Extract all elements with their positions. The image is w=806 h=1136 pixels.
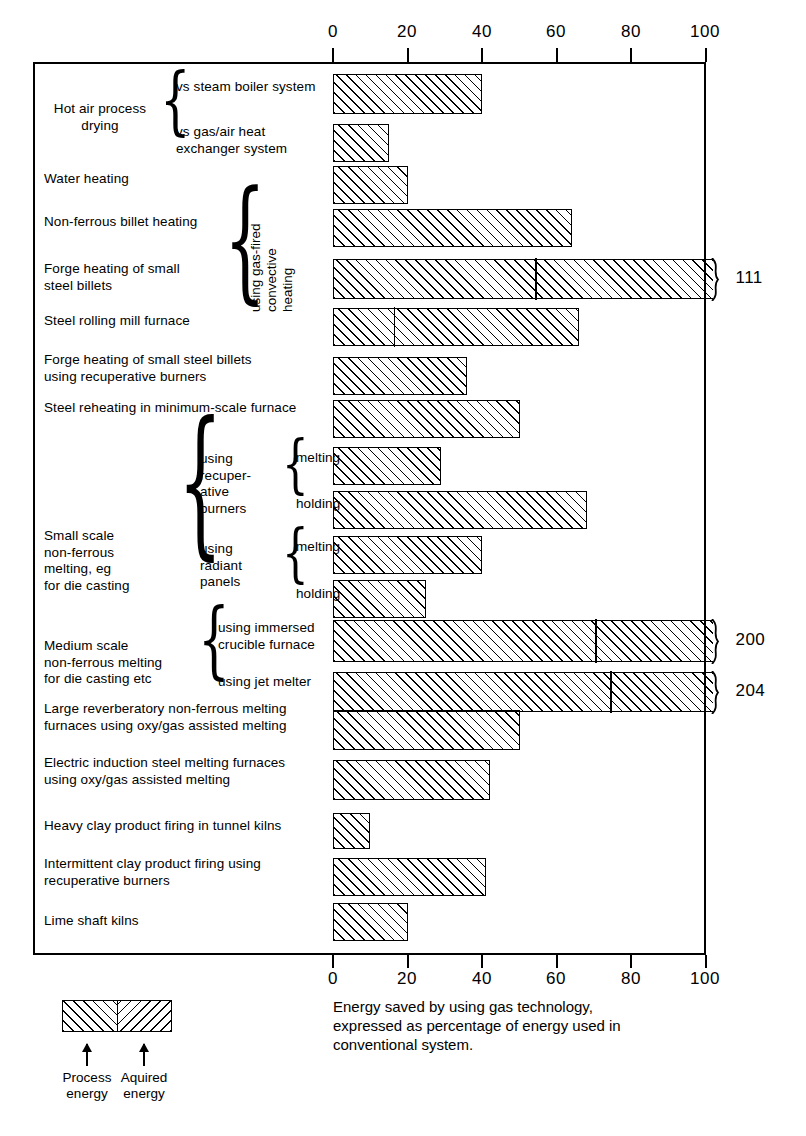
- tick-mark: [556, 955, 558, 968]
- label-holding-radiant: holding: [296, 586, 376, 603]
- label-melting-radiant: melting: [296, 539, 376, 556]
- label-using-immersed-crucible-furnace: using immersed crucible furnace: [218, 620, 378, 653]
- axis-break-icon: [711, 671, 722, 712]
- tick-mark: [481, 955, 483, 968]
- bar-value-label: 111: [735, 268, 762, 288]
- legend-swatch: [62, 1000, 172, 1032]
- bar-2: [333, 166, 408, 204]
- label-using-radiant-panels: using radiant panels: [200, 541, 286, 591]
- label-hot-air-process-drying: Hot air process drying: [30, 101, 170, 134]
- tick-mark: [630, 955, 632, 968]
- tick-mark: [407, 48, 409, 62]
- axis-bottom-tick-20: 20: [377, 969, 437, 989]
- legend-aquired-label: Aquired energy: [102, 1070, 186, 1102]
- tick-mark: [630, 48, 632, 62]
- axis-top-tick-100: 100: [675, 22, 735, 42]
- legend-aquired-arrow: [143, 1044, 145, 1066]
- label-water-heating: Water heating: [44, 171, 244, 188]
- bar-7: [333, 400, 520, 438]
- axis-top-tick-60: 60: [526, 22, 586, 42]
- axis-bottom-tick-0: 0: [303, 969, 363, 989]
- bar-0: [333, 74, 482, 114]
- legend-aquired-hatch: [118, 1001, 172, 1031]
- axis-top-tick-40: 40: [452, 22, 512, 42]
- tick-mark: [705, 48, 707, 62]
- axis-bottom-tick-80: 80: [601, 969, 661, 989]
- tick-mark: [332, 955, 334, 968]
- bar-4: [333, 259, 713, 299]
- label-vs-steam-boiler-system: vs steam boiler system: [176, 79, 346, 96]
- bar-5: [333, 308, 579, 346]
- label-using-gas-fired-convective-heating: using gas-fired convective heating: [248, 202, 296, 312]
- axis-break-icon: [711, 619, 722, 662]
- label-forge-recuperative-burners: Forge heating of small steel billets usi…: [44, 352, 344, 385]
- bar-split-divider: [535, 258, 537, 299]
- bar-3: [333, 209, 572, 247]
- label-electric-induction: Electric induction steel melting furnace…: [44, 755, 364, 788]
- bar-value-label: 200: [735, 630, 765, 650]
- label-melting-recuperative: melting: [296, 450, 376, 467]
- label-using-recuperative-burners: using recuper- ative burners: [200, 451, 286, 517]
- axis-top-tick-20: 20: [377, 22, 437, 42]
- label-vs-gas-air-heat-exchanger: vs gas/air heat exchanger system: [176, 124, 346, 157]
- label-using-jet-melter: using jet melter: [218, 674, 378, 691]
- label-intermittent-clay-firing: Intermittent clay product firing using r…: [44, 856, 364, 889]
- bar-split-divider: [610, 671, 612, 712]
- chart-caption: Energy saved by using gas technology, ex…: [333, 997, 673, 1054]
- tick-mark: [556, 48, 558, 62]
- legend-process-hatch: [63, 1001, 118, 1031]
- bar-value-label: 204: [735, 681, 765, 701]
- tick-mark: [705, 955, 707, 968]
- axis-bottom-tick-100: 100: [675, 969, 735, 989]
- bar-12: [333, 620, 713, 662]
- legend-process-arrow: [86, 1044, 88, 1066]
- label-lime-shaft-kilns: Lime shaft kilns: [44, 913, 364, 930]
- tick-mark: [481, 48, 483, 62]
- bar-6: [333, 357, 467, 395]
- bar-13: [333, 672, 713, 712]
- tick-mark: [407, 955, 409, 968]
- tick-mark: [332, 48, 334, 62]
- bar-split-divider: [595, 619, 597, 662]
- label-medium-scale-non-ferrous-melting: Medium scale non-ferrous melting for die…: [44, 638, 224, 688]
- axis-bottom-tick-60: 60: [526, 969, 586, 989]
- axis-bottom-tick-40: 40: [452, 969, 512, 989]
- axis-top-tick-0: 0: [303, 22, 363, 42]
- label-holding-recuperative: holding: [296, 496, 376, 513]
- label-large-reverberatory: Large reverberatory non-ferrous melting …: [44, 701, 364, 734]
- label-heavy-clay-tunnel-kilns: Heavy clay product firing in tunnel kiln…: [44, 818, 364, 835]
- bar-split-divider: [394, 307, 396, 346]
- bar-chart: 0 20 40 60 80 100 111200204 Hot air proc…: [0, 0, 806, 1136]
- axis-break-icon: [711, 258, 722, 299]
- axis-top-tick-80: 80: [601, 22, 661, 42]
